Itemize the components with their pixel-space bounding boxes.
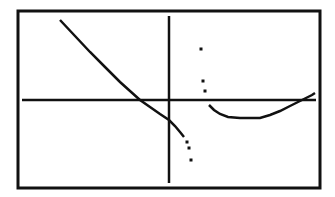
plot-dot xyxy=(186,141,189,144)
left-branch xyxy=(60,20,184,137)
plot-dot xyxy=(190,159,193,162)
plot-dot xyxy=(204,90,207,93)
plot-series xyxy=(60,20,315,162)
right-branch xyxy=(209,93,315,118)
plot-dot xyxy=(188,147,191,150)
function-plot xyxy=(0,0,335,197)
plot-dot xyxy=(202,80,205,83)
calculator-graph-screen xyxy=(0,0,335,197)
plot-dot xyxy=(200,48,203,51)
